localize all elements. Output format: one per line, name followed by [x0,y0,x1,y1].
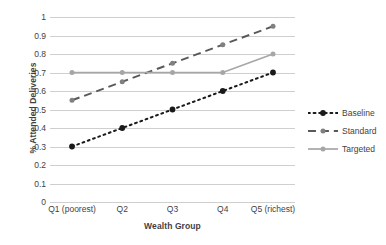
legend-swatch-icon [308,107,338,119]
x-axis-tick-label: Q1 (poorest) [48,205,96,214]
y-axis-tick-label: 1 [0,13,46,22]
data-point [220,42,225,47]
data-point [220,70,225,75]
x-axis-title: Wealth Group [50,221,295,231]
x-axis-tick-label: Q3 [167,205,178,214]
y-axis-tick-label: 0.2 [0,161,46,170]
data-point [271,52,276,57]
legend-item-baseline[interactable]: Baseline [308,104,386,122]
data-point [70,98,75,103]
data-point [271,24,276,29]
y-axis-tick-label: 0.7 [0,68,46,77]
y-axis-tick-label: 0.5 [0,105,46,114]
legend-item-standard[interactable]: Standard [308,122,386,140]
data-point [170,70,175,75]
y-axis-tick-label: 0.1 [0,179,46,188]
y-axis-tick-label: 0.6 [0,87,46,96]
x-axis-tick-labels: Q1 (poorest)Q2Q3Q4Q5 (richest) [50,205,295,219]
chart-legend: BaselineStandardTargeted [308,104,386,158]
plot-area [50,17,295,202]
line-chart: % Attended Deliveries 00.10.20.30.40.50.… [0,0,386,245]
series-baseline [69,70,276,150]
data-point [69,144,75,150]
data-point [170,107,176,113]
legend-label: Standard [342,127,377,136]
legend-swatch-icon [308,125,338,137]
data-point [120,79,125,84]
legend-label: Baseline [342,109,375,118]
x-axis-tick-label: Q5 (richest) [251,205,295,214]
x-axis-tick-label: Q2 [117,205,128,214]
legend-label: Targeted [342,145,375,154]
data-point [170,61,175,66]
y-axis-tick-label: 0.3 [0,142,46,151]
y-axis-tick-labels: 00.10.20.30.40.50.60.70.80.91 [0,0,46,245]
x-axis-tick-label: Q4 [217,205,228,214]
series-standard [70,24,276,103]
data-point [119,125,125,131]
data-point [270,70,276,76]
data-point [120,70,125,75]
y-axis-tick-label: 0.4 [0,124,46,133]
series-canvas [50,17,295,202]
y-axis-tick-label: 0.8 [0,50,46,59]
y-axis-tick-label: 0 [0,198,46,207]
legend-item-targeted[interactable]: Targeted [308,140,386,158]
gridline [50,202,295,203]
data-point [220,88,226,94]
y-axis-tick-label: 0.9 [0,31,46,40]
legend-swatch-icon [308,143,338,155]
data-point [70,70,75,75]
